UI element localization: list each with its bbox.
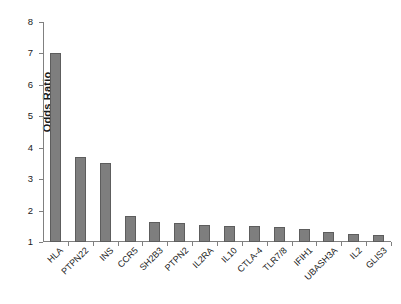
x-label-ctla-4: CTLA-4	[236, 246, 264, 274]
bar-ptpn22	[75, 157, 86, 242]
x-axis-tick	[142, 242, 143, 246]
y-axis-tick-label: 3	[28, 174, 33, 184]
x-axis-tick	[267, 242, 268, 246]
x-axis-tick	[93, 242, 94, 246]
y-axis-tick: 2	[39, 211, 43, 212]
y-axis-tick: 3	[39, 179, 43, 180]
y-axis-tick: 4	[39, 148, 43, 149]
bar-hla	[50, 53, 61, 242]
y-axis-tick: 8	[39, 22, 43, 23]
bar-ctla-4	[249, 226, 260, 242]
x-axis-tick	[68, 242, 69, 246]
y-axis-tick-label: 6	[28, 80, 33, 90]
bar-ccr5	[125, 216, 136, 242]
x-label-il10: IL10	[221, 246, 240, 265]
x-axis-tick	[217, 242, 218, 246]
bar-ins	[100, 163, 111, 242]
y-axis-tick-label: 4	[28, 143, 33, 153]
bar-il2	[348, 234, 359, 242]
x-axis-tick	[341, 242, 342, 246]
x-axis-tick	[118, 242, 119, 246]
x-label-il2ra: IL2RA	[191, 246, 215, 270]
bar-ubash3a	[323, 232, 334, 242]
bar-ifih1	[299, 229, 310, 242]
y-axis-tick-label: 7	[28, 49, 33, 59]
x-axis-tick	[366, 242, 367, 246]
x-axis-tick	[242, 242, 243, 246]
x-label-hla: HLA	[47, 246, 66, 265]
plot-area: 12345678	[43, 22, 391, 242]
bar-sh2b3	[149, 222, 160, 242]
y-axis-tick-label: 5	[28, 112, 33, 122]
x-label-ptpn22: PTPN22	[60, 246, 90, 276]
x-label-ccr5: CCR5	[116, 246, 140, 270]
bar-ptpn2	[174, 223, 185, 242]
x-label-tlr7-8: TLR7/8	[262, 246, 289, 273]
y-axis-tick: 7	[39, 53, 43, 54]
odds-ratio-bar-chart: Odds Ratio 12345678 HLAPTPN22INSCCR5SH2B…	[0, 0, 401, 304]
y-axis-tick-label: 2	[28, 206, 33, 216]
bar-tlr7-8	[274, 227, 285, 242]
y-axis-tick-label: 8	[28, 17, 33, 27]
x-label-glis3: GLIS3	[364, 246, 388, 270]
x-label-ptpn2: PTPN2	[163, 246, 190, 273]
y-axis-tick: 5	[39, 116, 43, 117]
bar-il10	[224, 226, 235, 242]
x-axis-tick	[391, 242, 392, 246]
x-label-ins: INS	[99, 246, 116, 263]
y-axis-tick-label: 1	[28, 237, 33, 247]
x-label-il2: IL2	[348, 246, 363, 261]
bar-il2ra	[199, 225, 210, 242]
x-axis-tick	[167, 242, 168, 246]
y-axis-line	[43, 22, 44, 242]
x-axis-tick	[316, 242, 317, 246]
x-axis-tick	[292, 242, 293, 246]
x-label-sh2b3: SH2B3	[138, 246, 165, 273]
y-axis-tick: 6	[39, 85, 43, 86]
bar-glis3	[373, 235, 384, 242]
y-axis-tick: 1	[39, 242, 43, 243]
x-axis-tick	[192, 242, 193, 246]
